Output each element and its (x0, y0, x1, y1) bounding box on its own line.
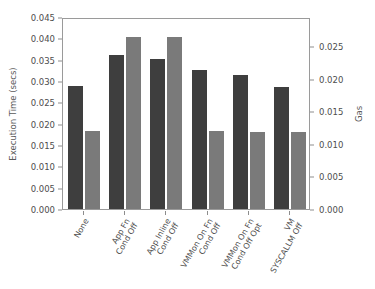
x-axis-labels: NoneApp FnCond OffApp InlineCond OffVMMo… (62, 211, 310, 289)
x-axis-tick-mark (124, 211, 125, 215)
right-axis-tick-label: 0.005 (319, 172, 343, 182)
bar-gas (126, 37, 141, 209)
left-axis-tick-label: 0.015 (31, 141, 55, 151)
bar-gas (291, 132, 306, 209)
left-axis-tick-label: 0.030 (31, 77, 55, 87)
left-axis-title: Execution Time (secs) (6, 18, 20, 210)
x-axis-tick-label: None (28, 217, 91, 289)
bar-execution-time (68, 86, 83, 209)
left-axis-tick-label: 0.025 (31, 98, 55, 108)
x-axis-tick-mark (289, 211, 290, 215)
right-axis-tick-label: 0.000 (319, 205, 343, 215)
right-axis-tick-label: 0.010 (319, 140, 343, 150)
left-axis-tick-label: 0.010 (31, 162, 55, 172)
bar-execution-time (150, 59, 165, 209)
plot-area (62, 18, 310, 210)
right-axis-tick-label: 0.015 (319, 107, 343, 117)
left-axis-tick-label: 0.040 (31, 34, 55, 44)
left-axis-tick-label: 0.035 (31, 56, 55, 66)
right-axis-tick-mark (310, 177, 314, 178)
bar-gas (209, 131, 224, 209)
bar-execution-time (274, 87, 289, 209)
right-axis-title: Gas (352, 18, 366, 210)
left-axis-tick-label: 0.000 (31, 205, 55, 215)
bar-execution-time (192, 70, 207, 209)
right-axis-tick-label: 0.020 (319, 75, 343, 85)
right-axis-tick-mark (310, 112, 314, 113)
right-axis-tick-mark (310, 79, 314, 80)
x-axis-tick-mark (165, 211, 166, 215)
right-axis-tick-mark (310, 144, 314, 145)
chart-figure: 0.0000.0050.0100.0150.0200.0250.0300.035… (0, 0, 375, 289)
bar-gas (167, 37, 182, 209)
bar-gas (250, 132, 265, 209)
bar-gas (85, 131, 100, 209)
right-axis-title-text: Gas (354, 106, 364, 122)
right-axis-tick-mark (310, 210, 314, 211)
bar-execution-time (233, 75, 248, 209)
x-axis-tick-mark (207, 211, 208, 215)
left-axis-tick-label: 0.005 (31, 184, 55, 194)
bar-execution-time (109, 55, 124, 209)
left-axis-title-text: Execution Time (secs) (8, 67, 18, 160)
x-axis-tick-label-line: None (28, 217, 91, 289)
right-axis-tick-mark (310, 47, 314, 48)
left-axis-tick-label: 0.020 (31, 120, 55, 130)
x-axis-tick-mark (83, 211, 84, 215)
left-axis-tick-label: 0.045 (31, 13, 55, 23)
x-axis-tick-mark (248, 211, 249, 215)
right-axis-tick-label: 0.025 (319, 42, 343, 52)
